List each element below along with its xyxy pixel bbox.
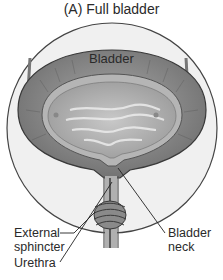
label-external-sphincter-line2: sphincter — [14, 240, 65, 254]
label-urethra: Urethra — [14, 256, 56, 270]
label-bladder-neck: Bladder neck — [168, 226, 211, 254]
label-external-sphincter: External sphincter — [14, 226, 65, 254]
label-external-sphincter-line1: External — [14, 226, 65, 240]
external-sphincter — [94, 201, 126, 229]
label-bladder-neck-line2: neck — [168, 240, 211, 254]
label-bladder: Bladder — [89, 52, 134, 66]
label-bladder-neck-line1: Bladder — [168, 226, 211, 240]
